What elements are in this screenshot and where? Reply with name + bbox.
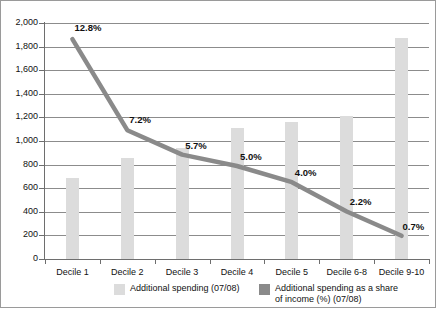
x-axis-tick-label: Decile 2 [100, 267, 155, 278]
chart-legend: Additional spending (07/08) Additional s… [1, 281, 437, 309]
y-axis-tick [39, 23, 45, 24]
y-axis-tick [39, 259, 45, 260]
x-axis-tick [155, 259, 156, 264]
x-axis-tick [45, 259, 46, 264]
y-axis-tick [39, 235, 45, 236]
x-axis-tick [100, 259, 101, 264]
x-axis-labels: Decile 1Decile 2Decile 3Decile 4Decile 5… [1, 1, 437, 309]
y-axis-tick [39, 94, 45, 95]
legend-swatch-bar [114, 284, 125, 295]
x-axis-tick [210, 259, 211, 264]
chart-container: 2,0001,8001,6001,4001,2001,0008006004002… [0, 0, 436, 308]
x-axis-tick-label: Decile 4 [210, 267, 265, 278]
legend-swatch-line [259, 284, 270, 295]
x-axis-tick-label: Decile 6-8 [319, 267, 374, 278]
legend-label-bar: Additional spending (07/08) [130, 283, 240, 294]
x-axis-tick [429, 259, 430, 264]
y-axis-tick [39, 47, 45, 48]
legend-label-line-1: Additional spending as a share [275, 283, 398, 294]
x-axis-tick-label: Decile 1 [45, 267, 100, 278]
y-axis-tick [39, 165, 45, 166]
x-axis-tick [264, 259, 265, 264]
y-axis-tick [39, 141, 45, 142]
y-axis-tick [39, 70, 45, 71]
x-axis-tick [374, 259, 375, 264]
x-axis-tick-label: Decile 5 [264, 267, 319, 278]
legend-item-share-of-income: Additional spending as a share of income… [259, 283, 398, 305]
y-axis-tick [39, 188, 45, 189]
legend-item-additional-spending: Additional spending (07/08) [114, 283, 240, 295]
x-axis-tick [319, 259, 320, 264]
y-axis-tick [39, 117, 45, 118]
legend-label-line-2: of income (%) (07/08) [275, 294, 398, 305]
x-axis-tick-label: Decile 3 [155, 267, 210, 278]
y-axis-tick [39, 212, 45, 213]
x-axis-tick-label: Decile 9-10 [374, 267, 429, 278]
